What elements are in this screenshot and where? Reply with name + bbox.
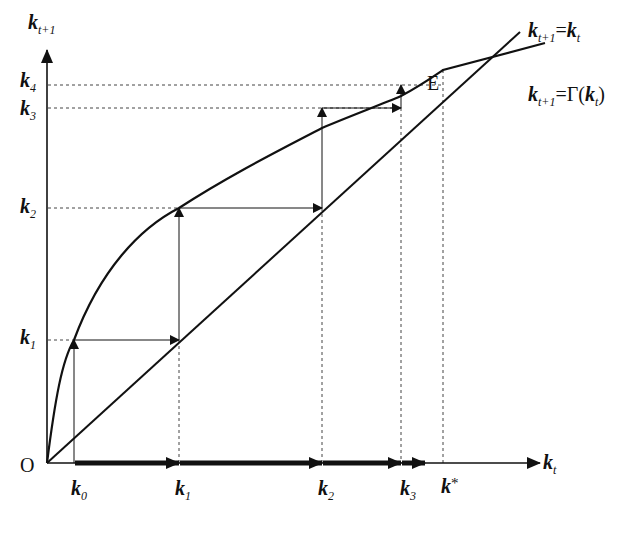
guide-lines — [48, 70, 443, 463]
y-axis-label: kt+1 — [28, 12, 55, 36]
gamma-curve — [47, 43, 545, 463]
x-tick-k0: k0 — [71, 478, 87, 502]
y-tick-k1: k1 — [20, 327, 36, 351]
cobweb-arrows — [74, 85, 401, 463]
x-tick-k2: k2 — [318, 478, 334, 502]
x-tick-k1: k1 — [175, 478, 191, 502]
diagonal-line — [47, 32, 520, 463]
x-tick-kstar: k* — [441, 476, 459, 496]
y-tick-k3: k3 — [20, 98, 36, 122]
x-axis-label: kt — [543, 452, 556, 476]
x-tick-k3: k3 — [400, 478, 416, 502]
diagram-canvas — [0, 0, 633, 534]
gamma-label: kt+1=Γ(kt) — [528, 84, 605, 108]
diagonal-label: kt+1=kt — [528, 20, 580, 44]
equilibrium-label: E — [427, 73, 439, 93]
y-tick-k4: k4 — [20, 70, 36, 94]
origin-label: O — [20, 455, 34, 475]
y-tick-k2: k2 — [20, 196, 36, 220]
